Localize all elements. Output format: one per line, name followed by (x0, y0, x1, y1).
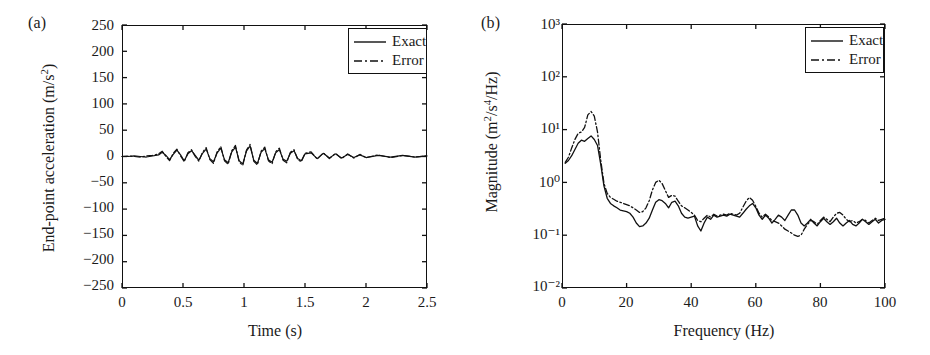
panel-a-legend-item-error: Error (353, 51, 420, 70)
solid-line-icon (353, 36, 387, 48)
panel-b-xtick-4: 80 (800, 294, 840, 311)
panel-b-xtick-3: 60 (735, 294, 775, 311)
panel-a-xtick-4: 2 (346, 294, 386, 311)
panel-b-xtick-5: 100 (865, 294, 905, 311)
panel-b-yaxis-title-prefix: Magnitude (m (483, 121, 500, 212)
panel-a-legend-label-error: Error (392, 53, 424, 68)
panel-b-yaxis-title-suffix: /Hz) (483, 71, 500, 99)
panel-b-xaxis-title: Frequency (Hz) (624, 322, 824, 340)
dashdot-line-icon (353, 55, 387, 67)
panel-b-legend-item-error: Error (810, 50, 877, 69)
figure-container: (a) 250 200 150 100 50 0 −50 −100 −150 −… (0, 0, 930, 355)
panel-b-yaxis-title-mid: /s (483, 105, 500, 116)
panel-b-legend-label-error: Error (849, 52, 881, 67)
panel-a-xaxis-title: Time (s) (175, 322, 375, 340)
panel-a-yaxis-title: End-point acceleration (m/s2) (40, 23, 58, 293)
panel-a-yaxis-title-exp: 2 (38, 69, 50, 74)
panel-a-legend-item-exact: Exact (353, 32, 420, 51)
panel-a-xtick-3: 1.5 (285, 294, 325, 311)
panel-a-yaxis-title-suffix: ) (40, 64, 57, 69)
panel-b-xtick-1: 20 (606, 294, 646, 311)
panel-a-xtick-0: 0 (102, 294, 142, 311)
panel-b-legend: Exact Error (805, 27, 884, 73)
panel-b-yaxis-title: Magnitude (m2/s4/Hz) (483, 22, 501, 262)
panel-a-xtick-2: 1 (224, 294, 264, 311)
panel-b-xtick-0: 0 (542, 294, 582, 311)
panel-b-yaxis-title-exp1: 2 (481, 116, 493, 121)
panel-a-yaxis-title-prefix: End-point acceleration (m/s (40, 75, 57, 253)
panel-b: (b) 10³ 10² 10¹ 10⁰ 10⁻¹ 10⁻² Exact Erro… (465, 0, 930, 355)
panel-a: (a) 250 200 150 100 50 0 −50 −100 −150 −… (0, 0, 465, 355)
solid-line-icon (810, 35, 844, 47)
panel-b-yaxis-title-exp2: 4 (481, 100, 493, 105)
panel-b-legend-item-exact: Exact (810, 31, 877, 50)
panel-b-xtick-2: 40 (671, 294, 711, 311)
panel-a-legend-label-exact: Exact (392, 34, 426, 49)
panel-b-legend-label-exact: Exact (849, 33, 883, 48)
panel-a-legend: Exact Error (348, 28, 427, 74)
panel-a-xtick-1: 0.5 (163, 294, 203, 311)
dashdot-line-icon (810, 54, 844, 66)
panel-a-xtick-5: 2.5 (407, 294, 447, 311)
